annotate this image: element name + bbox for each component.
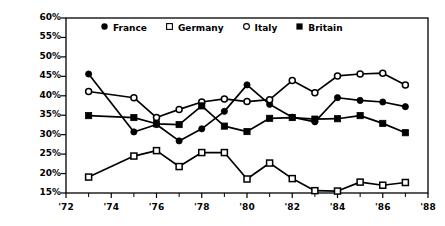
data-point [289,78,295,84]
data-point [244,99,250,105]
data-point [267,97,273,103]
chart-container: % never talking about politics France Ge… [0,0,445,226]
y-axis-tick-label: 35% [33,109,61,119]
data-point [131,129,137,135]
chart-legend: France Germany Italy Britain [100,22,343,33]
data-point [176,121,182,127]
data-point [312,188,318,194]
data-point [357,71,363,77]
legend-item-france: France [100,22,147,33]
y-axis-tick-label: 40% [33,90,61,100]
data-point [221,123,227,129]
data-point [86,89,92,95]
data-point [221,108,227,114]
legend-item-britain: Britain [295,22,342,33]
data-point [131,95,137,101]
data-point [131,114,137,120]
data-point [380,182,386,188]
data-point [86,71,92,77]
plot-frame [66,18,428,193]
filled-circle-icon [100,22,109,33]
series-markers-germany [86,148,409,194]
data-point [244,82,250,88]
y-axis-tick-label: 55% [33,31,61,41]
data-point [380,70,386,76]
x-axis-tick-label: '80 [234,202,260,212]
data-point [334,116,340,122]
data-point [221,150,227,156]
y-axis-tick-label: 30% [33,129,61,139]
open-circle-icon [242,22,251,33]
y-axis-tick-label: 25% [33,148,61,158]
legend-label-britain: Britain [308,23,342,33]
x-axis-tick-label: '86 [370,202,396,212]
data-point [402,180,408,186]
data-point [402,130,408,136]
legend-item-italy: Italy [242,22,278,33]
legend-label-italy: Italy [255,23,278,33]
data-point [199,103,205,109]
y-axis-tick-label: 15% [33,187,61,197]
data-point [335,188,341,194]
x-axis-tick-label: '72 [53,202,79,212]
data-point [244,128,250,134]
x-axis-tick-label: '84 [325,202,351,212]
data-point [289,114,295,120]
data-point [334,95,340,101]
data-point [357,113,363,119]
data-point [335,73,341,79]
plot-area [0,0,445,226]
data-point [402,104,408,110]
x-axis-tick-label: '76 [144,202,170,212]
data-point [199,150,205,156]
data-point [221,96,227,102]
data-point [153,121,159,127]
data-point [154,115,160,121]
data-point [289,176,295,182]
data-point [380,99,386,105]
y-axis-tick-label: 60% [33,12,61,22]
data-point [86,174,92,180]
x-axis-tick-label: '88 [415,202,441,212]
x-axis-tick-label: '78 [189,202,215,212]
data-point [380,120,386,126]
legend-label-france: France [113,23,147,33]
data-point [244,176,250,182]
data-point [357,179,363,185]
data-point [131,153,137,159]
y-axis-tick-label: 45% [33,70,61,80]
data-point [312,90,318,96]
data-point [357,97,363,103]
data-point [267,160,273,166]
legend-label-germany: Germany [178,23,224,33]
data-point [154,148,160,154]
data-point [176,138,182,144]
open-square-icon [165,22,174,33]
y-axis-tick-label: 20% [33,168,61,178]
data-point [312,116,318,122]
data-point [86,113,92,119]
data-point [199,126,205,132]
x-axis-tick-label: '82 [279,202,305,212]
data-point [176,106,182,112]
y-axis-tick-label: 50% [33,51,61,61]
legend-item-germany: Germany [165,22,224,33]
data-point [176,164,182,170]
data-point [402,82,408,88]
x-axis-tick-label: '74 [98,202,124,212]
data-point [267,115,273,121]
filled-square-icon [295,22,304,33]
